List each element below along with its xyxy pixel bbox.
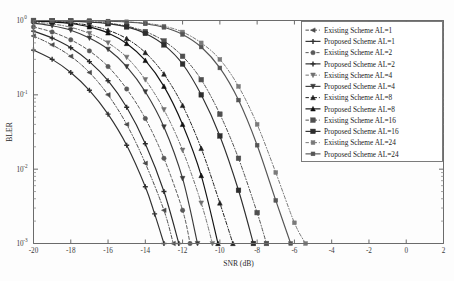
legend-item-label[interactable]: Proposed Scheme AL=16 xyxy=(324,127,399,136)
x-tick-label: -16 xyxy=(103,247,113,255)
curve-proposed-scheme-al-4 xyxy=(34,23,198,243)
legend-item-label[interactable]: Existing Scheme AL=8 xyxy=(324,93,393,102)
x-tick-label: -20 xyxy=(29,247,39,255)
legend-box[interactable]: Existing Scheme AL=1Proposed Scheme AL=1… xyxy=(302,22,443,162)
x-tick-label: -10 xyxy=(215,247,225,255)
x-tick-label: -6 xyxy=(291,247,297,255)
legend-marker-icon xyxy=(311,141,315,145)
legend-item-label[interactable]: Existing Scheme AL=2 xyxy=(324,48,393,57)
legend-item-label[interactable]: Proposed Scheme AL=2 xyxy=(324,60,395,69)
legend-item-label[interactable]: Existing Scheme AL=4 xyxy=(324,71,393,80)
legend-marker-icon xyxy=(311,118,316,123)
curve-existing-scheme-al-1 xyxy=(34,36,174,244)
y-tick-label: 10-3 xyxy=(16,237,28,248)
legend-marker-icon xyxy=(311,129,316,134)
y-tick-label: 100 xyxy=(16,14,27,25)
legend-item-label[interactable]: Proposed Scheme AL=24 xyxy=(324,150,399,159)
legend-item-label[interactable]: Existing Scheme AL=16 xyxy=(324,116,396,125)
legend-item-label[interactable]: Existing Scheme AL=1 xyxy=(324,26,393,35)
x-tick-label: -4 xyxy=(329,247,335,255)
svg-text:0: 0 xyxy=(24,14,27,20)
curves-layer xyxy=(34,20,306,243)
legend-marker-icon xyxy=(311,50,315,54)
curve-existing-scheme-al-8 xyxy=(34,21,233,244)
markers-layer xyxy=(31,18,307,246)
x-tick-label: -2 xyxy=(366,247,372,255)
legend-marker-icon xyxy=(311,152,315,156)
svg-text:-1: -1 xyxy=(23,89,28,95)
x-tick-label: 0 xyxy=(404,247,408,255)
bler-vs-snr-chart: -20-18-16-14-12-10-8-6-4-20210010-110-21… xyxy=(0,0,454,281)
legend-item-label[interactable]: Proposed Scheme AL=8 xyxy=(324,105,395,114)
y-axis-title: BLER xyxy=(5,121,14,141)
y-tick-label: 10-1 xyxy=(16,89,28,100)
legend-item-label[interactable]: Existing Scheme AL=24 xyxy=(324,138,396,147)
x-tick-label: -14 xyxy=(141,247,151,255)
legend-item-label[interactable]: Proposed Scheme AL=4 xyxy=(324,82,395,91)
x-tick-label: 2 xyxy=(442,247,446,255)
x-axis-title: SNR (dB) xyxy=(223,259,254,268)
x-tick-label: -12 xyxy=(178,247,188,255)
x-tick-label: -8 xyxy=(254,247,260,255)
figure-container: -20-18-16-14-12-10-8-6-4-20210010-110-21… xyxy=(0,0,454,281)
svg-text:-3: -3 xyxy=(23,237,28,243)
y-tick-label: 10-2 xyxy=(16,163,28,174)
svg-text:-2: -2 xyxy=(23,163,28,169)
curve-existing-scheme-al-16 xyxy=(34,21,267,244)
curve-proposed-scheme-al-2 xyxy=(34,31,179,243)
legend-item-label[interactable]: Proposed Scheme AL=1 xyxy=(324,37,395,46)
curve-existing-scheme-al-2 xyxy=(34,27,191,244)
svg-text:10: 10 xyxy=(16,17,24,25)
x-tick-label: -18 xyxy=(66,247,76,255)
